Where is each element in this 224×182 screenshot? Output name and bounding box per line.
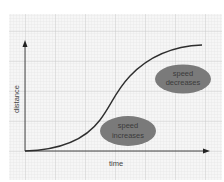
speed-increases-line2: increases bbox=[112, 131, 144, 140]
speed-decreases-line2: decreases bbox=[166, 78, 201, 87]
x-axis-label: time bbox=[109, 159, 123, 168]
speed-increases-annotation: speed increases bbox=[100, 116, 156, 146]
y-axis-label: distance bbox=[12, 85, 21, 113]
speed-increases-line1: speed bbox=[118, 121, 138, 130]
graph-paper bbox=[9, 14, 222, 180]
speed-decreases-annotation: speed decreases bbox=[155, 65, 211, 94]
distance-time-diagram: speed decreases speed increases time dis… bbox=[0, 0, 224, 182]
speed-decreases-line1: speed bbox=[173, 69, 193, 78]
